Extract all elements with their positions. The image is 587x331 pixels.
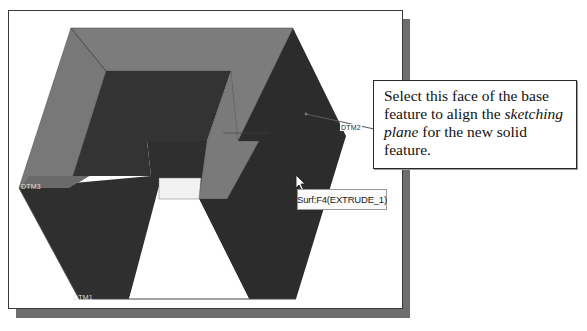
datum-label-dtm3: DTM3 <box>21 183 41 190</box>
graphics-window[interactable]: DTM2 DTM3 DTM1 Surf:F4(EXTRUDE_1) <box>8 10 403 309</box>
surface-tooltip: Surf:F4(EXTRUDE_1) <box>297 189 387 210</box>
leader-arrow-tip <box>305 113 308 116</box>
model-viewport[interactable] <box>9 11 402 308</box>
model-opening-ledge <box>159 178 201 199</box>
frame-shadow-bottom <box>16 308 410 318</box>
datum-label-dtm1: DTM1 <box>73 294 93 301</box>
background-text-bleed <box>430 40 433 52</box>
callout-annotation: Select this face of the base feature to … <box>373 80 577 169</box>
datum-label-dtm2: DTM2 <box>340 124 362 131</box>
